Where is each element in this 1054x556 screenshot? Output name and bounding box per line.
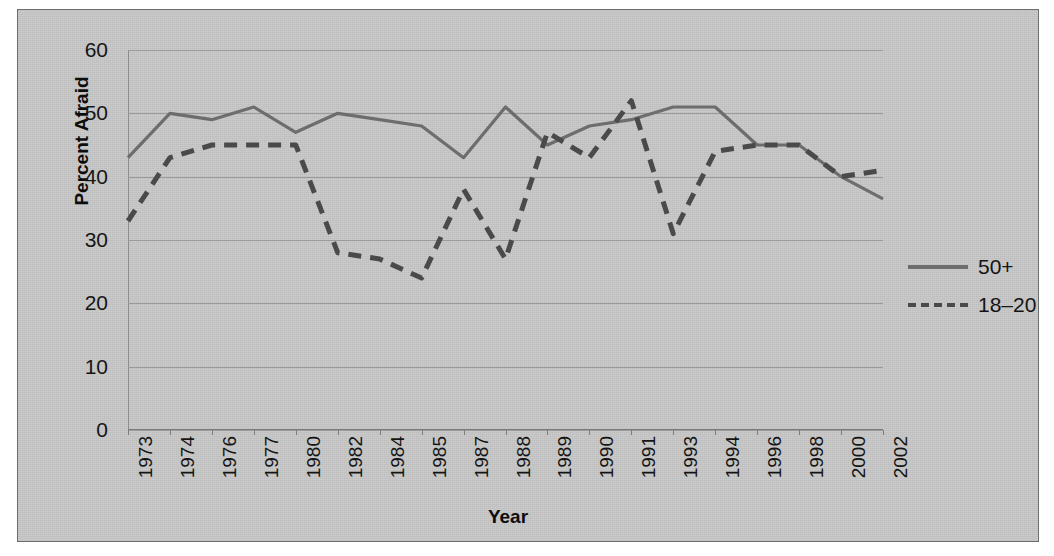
x-tick-label: 1987 [471,436,493,478]
x-tick-label: 1982 [345,436,367,478]
legend-swatch-dashed-line [908,303,968,307]
x-axis-title: Year [18,506,998,528]
y-tick-label: 10 [28,355,108,379]
series-line-0 [128,107,883,199]
y-tick-label: 20 [28,291,108,315]
x-tick-label: 1974 [177,436,199,478]
x-tick [883,430,884,435]
x-tick-label: 1988 [513,436,535,478]
x-axis-tick-labels: 1973197419761977198019821984198519871988… [128,434,883,504]
plot-area [128,50,883,430]
y-tick-label: 30 [28,228,108,252]
x-tick-label: 1990 [596,436,618,478]
chart-figure: Percent Afraid 0102030405060 19731974197… [17,9,1039,542]
legend-entry-0: 50+ [908,248,1038,286]
legend-entry-1: 18–20 [908,286,1038,324]
x-tick-label: 1996 [764,436,786,478]
legend-swatch-solid-line [908,265,968,269]
x-tick-label: 1994 [722,436,744,478]
x-tick-label: 1976 [219,436,241,478]
x-tick-label: 1977 [261,436,283,478]
x-tick-label: 1973 [135,436,157,478]
x-tick-label: 1993 [680,436,702,478]
x-tick-label: 2002 [890,436,912,478]
x-tick-label: 2000 [848,436,870,478]
x-tick-label: 1984 [387,436,409,478]
x-tick-label: 1985 [429,436,451,478]
x-tick-label: 1991 [638,436,660,478]
series-line-1 [128,101,883,278]
x-tick-label: 1980 [303,436,325,478]
x-tick-label: 1989 [554,436,576,478]
chart-legend: 50+ 18–20 [908,248,1038,324]
series-lines [128,50,883,430]
y-axis-tick-labels: 0102030405060 [18,50,118,430]
legend-label-1: 18–20 [978,293,1036,317]
y-tick-label: 40 [28,165,108,189]
y-tick-label: 0 [28,418,108,442]
legend-label-0: 50+ [978,255,1014,279]
y-tick-label: 50 [28,101,108,125]
y-tick-label: 60 [28,38,108,62]
x-tick-label: 1998 [806,436,828,478]
